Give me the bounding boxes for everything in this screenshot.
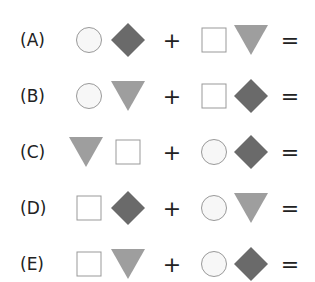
square-icon — [76, 195, 102, 221]
plus-sign: + — [163, 84, 181, 109]
square-shape — [76, 251, 102, 277]
option-label: (A) — [20, 30, 45, 50]
triangle-shape — [233, 24, 269, 56]
option-row[interactable]: (D)+= — [0, 180, 315, 236]
option-row[interactable]: (C)+= — [0, 124, 315, 180]
diamond-icon — [233, 134, 269, 170]
plus-sign: + — [163, 196, 181, 221]
option-label: (E) — [20, 254, 44, 274]
square-icon — [76, 251, 102, 277]
triangle-shape — [110, 80, 146, 112]
diamond-shape — [233, 246, 269, 282]
option-label: (C) — [20, 142, 45, 162]
triangle-icon — [68, 136, 104, 168]
square-shape — [115, 139, 141, 165]
circle-shape — [75, 82, 103, 110]
square-icon — [115, 139, 141, 165]
circle-icon — [75, 82, 103, 110]
diamond-icon — [110, 190, 146, 226]
triangle-icon — [233, 24, 269, 56]
square-shape — [201, 27, 227, 53]
triangle-shape — [68, 136, 104, 168]
equals-sign: = — [281, 252, 299, 277]
equals-sign: = — [281, 196, 299, 221]
diamond-icon — [110, 22, 146, 58]
plus-sign: + — [163, 140, 181, 165]
diamond-icon — [233, 246, 269, 282]
option-row[interactable]: (E)+= — [0, 236, 315, 282]
square-shape — [76, 195, 102, 221]
diamond-shape — [233, 78, 269, 114]
diamond-icon — [233, 78, 269, 114]
circle-shape — [200, 138, 228, 166]
plus-sign: + — [163, 252, 181, 277]
square-icon — [201, 83, 227, 109]
triangle-shape — [110, 248, 146, 280]
plus-sign: + — [163, 28, 181, 53]
option-row[interactable]: (A)+= — [0, 12, 315, 68]
option-label: (B) — [20, 86, 45, 106]
square-shape — [201, 83, 227, 109]
circle-shape — [200, 194, 228, 222]
equals-sign: = — [281, 140, 299, 165]
option-row[interactable]: (B)+= — [0, 68, 315, 124]
circle-shape — [75, 26, 103, 54]
diamond-shape — [110, 190, 146, 226]
circle-icon — [75, 26, 103, 54]
diamond-shape — [110, 22, 146, 58]
circle-shape — [200, 250, 228, 278]
triangle-shape — [233, 192, 269, 224]
triangle-icon — [110, 80, 146, 112]
square-icon — [201, 27, 227, 53]
circle-icon — [200, 250, 228, 278]
diamond-shape — [233, 134, 269, 170]
circle-icon — [200, 138, 228, 166]
equals-sign: = — [281, 84, 299, 109]
triangle-icon — [233, 192, 269, 224]
equals-sign: = — [281, 28, 299, 53]
triangle-icon — [110, 248, 146, 280]
option-label: (D) — [20, 198, 46, 218]
circle-icon — [200, 194, 228, 222]
